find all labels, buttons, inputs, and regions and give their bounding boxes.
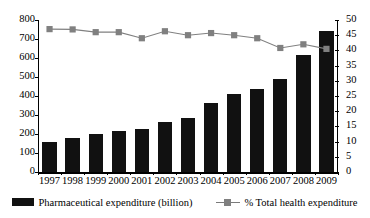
x-axis-tickmark <box>84 172 85 175</box>
legend-label-bars: Pharmaceutical expenditure (billion) <box>38 197 192 208</box>
x-axis-tickmark <box>223 172 224 175</box>
left-axis-tickmark <box>35 39 38 40</box>
right-axis-tickmark <box>335 96 339 97</box>
left-axis: 0100200300400500600700800 <box>0 0 38 180</box>
right-axis-tick-35: 35 <box>346 60 357 70</box>
line-square-marker-icon <box>216 198 240 207</box>
x-axis-tickmark <box>107 172 108 175</box>
bar-2009 <box>319 31 333 172</box>
left-axis-tick-500: 500 <box>19 71 35 81</box>
right-axis-tickmark <box>335 157 339 158</box>
bar-1997 <box>42 142 56 172</box>
legend-item-line: % Total health expenditure <box>216 197 357 208</box>
right-axis-tickmark <box>335 142 339 143</box>
right-axis-tickmark <box>335 20 339 21</box>
bar-1998 <box>65 138 79 172</box>
bar-2002 <box>158 122 172 172</box>
right-axis-tickmark <box>335 126 339 127</box>
x-axis-tickmark <box>176 172 177 175</box>
chart-figure: 0100200300400500600700800 05101520253035… <box>0 0 370 218</box>
x-axis-tickmark <box>292 172 293 175</box>
bar-series <box>38 20 338 172</box>
x-axis-tickmark <box>61 172 62 175</box>
bar-swatch-icon <box>12 198 34 206</box>
left-axis-tickmark <box>35 20 38 21</box>
left-axis-tick-100: 100 <box>19 147 35 157</box>
bar-2005 <box>227 94 241 172</box>
x-axis-tickmark <box>269 172 270 175</box>
bar-2004 <box>204 103 218 172</box>
right-axis-tick-20: 20 <box>346 105 357 115</box>
bar-2006 <box>250 89 264 172</box>
right-axis-tickmark <box>335 50 339 51</box>
bar-2000 <box>112 131 126 172</box>
legend-item-bars: Pharmaceutical expenditure (billion) <box>12 197 192 208</box>
left-axis-tick-600: 600 <box>19 52 35 62</box>
right-axis-tick-40: 40 <box>346 44 357 54</box>
right-axis-tickmark <box>335 66 339 67</box>
left-axis-tickmark <box>35 77 38 78</box>
bar-2007 <box>273 79 287 172</box>
x-axis-tickmark <box>38 172 39 175</box>
bar-2008 <box>296 55 310 172</box>
x-axis-tickmark <box>338 172 339 175</box>
right-axis-tick-5: 5 <box>346 151 351 161</box>
right-axis-tick-30: 30 <box>346 75 357 85</box>
x-axis-tickmark <box>246 172 247 175</box>
left-axis-tickmark <box>35 153 38 154</box>
x-axis-tickmark <box>130 172 131 175</box>
right-axis-tickmark <box>335 111 339 112</box>
x-axis-tickmark <box>200 172 201 175</box>
bar-1999 <box>89 134 103 172</box>
right-axis-tick-25: 25 <box>346 90 357 100</box>
bar-2001 <box>135 129 149 172</box>
left-axis-tickmark <box>35 58 38 59</box>
right-axis-tick-15: 15 <box>346 120 357 130</box>
right-axis-tick-45: 45 <box>346 29 357 39</box>
right-axis-tick-10: 10 <box>346 136 357 146</box>
x-label-2009: 2009 <box>313 174 339 188</box>
left-axis-tickmark <box>35 134 38 135</box>
right-axis: 05101520253035404550 <box>338 0 370 180</box>
left-axis-tickmark <box>35 115 38 116</box>
left-axis-tick-400: 400 <box>19 90 35 100</box>
chart-legend: Pharmaceutical expenditure (billion) % T… <box>0 192 370 212</box>
x-axis-tickmark <box>153 172 154 175</box>
plot-area: 0100200300400500600700800 05101520253035… <box>0 0 370 180</box>
right-axis-tickmark <box>335 81 339 82</box>
right-axis-tickmark <box>335 35 339 36</box>
legend-label-line: % Total health expenditure <box>244 197 357 208</box>
right-axis-tick-50: 50 <box>346 14 357 24</box>
left-axis-tick-300: 300 <box>19 109 35 119</box>
left-axis-tickmark <box>35 96 38 97</box>
x-axis-tickmark <box>315 172 316 175</box>
x-axis-tick-labels: 1997199819992000200120022003200420052006… <box>0 174 370 190</box>
left-axis-tick-200: 200 <box>19 128 35 138</box>
left-axis-tick-700: 700 <box>19 33 35 43</box>
bar-2003 <box>181 118 195 172</box>
left-axis-tick-800: 800 <box>19 14 35 24</box>
